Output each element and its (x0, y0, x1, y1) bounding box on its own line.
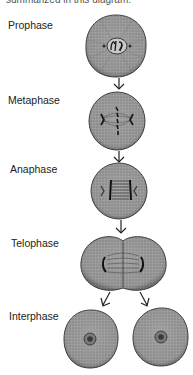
telophase-cell (81, 237, 166, 291)
mitosis-diagram (0, 0, 193, 375)
arrow-anaphase-to-telophase (116, 220, 126, 233)
interphase-cell-right (133, 308, 188, 366)
arrow-telophase-to-interphase-right (140, 292, 149, 306)
anaphase-cell (91, 163, 147, 219)
metaphase-cell (89, 92, 145, 150)
arrow-telophase-to-interphase-left (101, 292, 110, 306)
interphase-cell-left (64, 310, 118, 368)
prophase-cell (86, 15, 146, 77)
arrow-prophase-to-metaphase (114, 78, 124, 89)
arrow-metaphase-to-anaphase (114, 151, 124, 162)
anaphase-spindle (112, 181, 129, 199)
